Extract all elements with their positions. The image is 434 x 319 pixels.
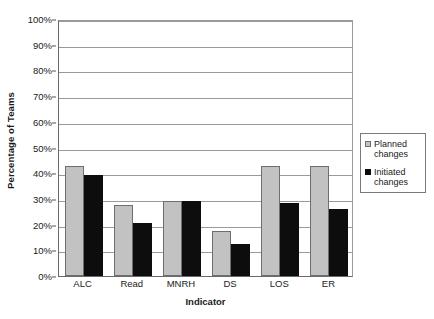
plot-area (58, 20, 353, 277)
x-axis-title: Indicator (58, 296, 353, 307)
y-axis-title: Percentage of Teams (0, 0, 20, 280)
y-tick-label: 60% (33, 118, 52, 128)
bar-alc-planned (65, 166, 84, 277)
bar-los-planned (261, 166, 280, 277)
bar-er-initiated (329, 209, 348, 276)
bar-group (212, 21, 250, 276)
x-tick-label: Read (120, 279, 143, 289)
x-axis-tick-labels: ALCReadMNRHDSLOSER (58, 279, 353, 295)
y-tick-label: 50% (33, 144, 52, 154)
bar-mnrh-planned (163, 201, 182, 276)
y-tick-mark (52, 251, 56, 252)
x-tick-label: DS (223, 279, 236, 289)
y-tick-mark (52, 45, 56, 46)
bar-chart: Percentage of Teams 0%10%20%30%40%50%60%… (0, 0, 434, 319)
y-tick-mark (52, 97, 56, 98)
y-tick-mark (52, 71, 56, 72)
y-tick-label: 20% (33, 221, 52, 231)
planned-swatch-icon (365, 141, 371, 147)
y-tick-mark (52, 174, 56, 175)
y-tick-mark (52, 277, 56, 278)
bar-mnrh-initiated (182, 201, 201, 276)
y-tick-label: 80% (33, 67, 52, 77)
y-axis-title-text: Percentage of Teams (5, 92, 16, 189)
legend-label-initiated-line2: changes (374, 177, 408, 187)
chart-legend: Plannedchanges Initiatedchanges (360, 133, 426, 193)
bar-ds-initiated (231, 244, 250, 276)
y-tick-label: 40% (33, 169, 52, 179)
y-tick-label: 0% (38, 272, 52, 282)
y-tick-mark (52, 199, 56, 200)
x-tick-label: MNRH (167, 279, 196, 289)
bar-alc-initiated (84, 175, 103, 277)
bars-layer (59, 21, 352, 276)
legend-label-initiated: Initiatedchanges (374, 167, 408, 188)
initiated-swatch-icon (365, 169, 371, 175)
x-tick-label: LOS (270, 279, 289, 289)
x-tick-label: ER (322, 279, 335, 289)
bar-los-initiated (280, 203, 299, 276)
bar-read-initiated (133, 223, 152, 276)
bar-group (261, 21, 299, 276)
legend-label-planned-line1: Planned (374, 139, 407, 149)
bar-group (163, 21, 201, 276)
bar-ds-planned (212, 231, 231, 276)
y-tick-label: 100% (28, 15, 52, 25)
legend-label-planned: Plannedchanges (374, 139, 408, 160)
y-tick-label: 30% (33, 195, 52, 205)
y-axis-tick-labels: 0%10%20%30%40%50%60%70%80%90%100% (20, 20, 56, 277)
legend-entry-planned: Plannedchanges (365, 139, 421, 160)
y-tick-mark (52, 122, 56, 123)
bar-er-planned (310, 166, 329, 277)
y-tick-mark (52, 225, 56, 226)
bar-group (310, 21, 348, 276)
y-tick-label: 70% (33, 92, 52, 102)
y-tick-label: 90% (33, 41, 52, 51)
bar-group (114, 21, 152, 276)
legend-entry-initiated: Initiatedchanges (365, 167, 421, 188)
y-tick-mark (52, 148, 56, 149)
y-tick-label: 10% (33, 247, 52, 257)
legend-label-planned-line2: changes (374, 149, 408, 159)
legend-label-initiated-line1: Initiated (374, 167, 406, 177)
x-tick-label: ALC (73, 279, 91, 289)
bar-group (65, 21, 103, 276)
bar-read-planned (114, 205, 133, 276)
y-tick-mark (52, 20, 56, 21)
